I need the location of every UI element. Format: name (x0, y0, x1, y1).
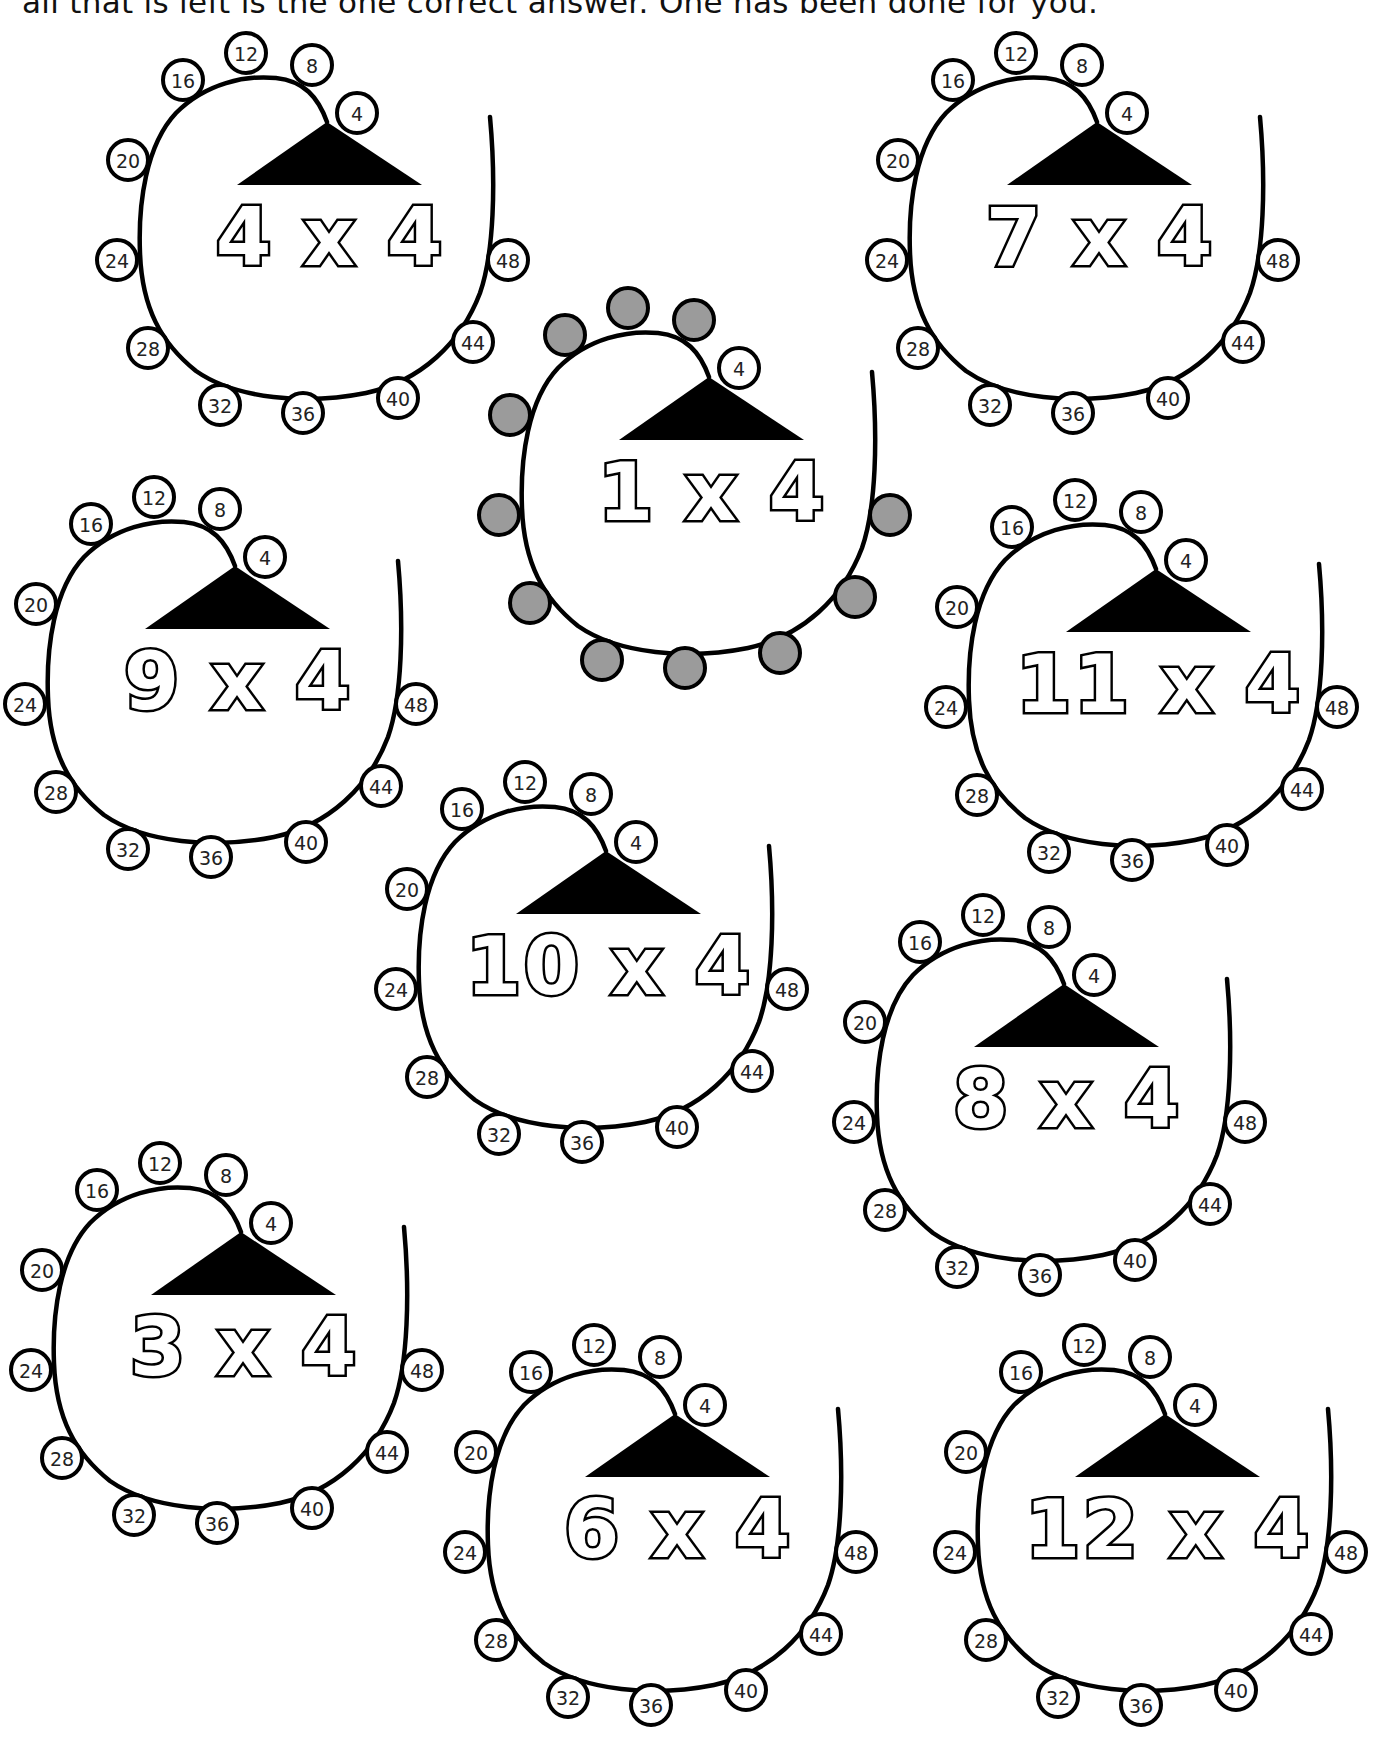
answer-bubble-8[interactable]: 8 (200, 489, 240, 529)
answer-bubble-32[interactable]: 32 (108, 829, 148, 869)
answer-bubble-40[interactable]: 40 (726, 1670, 766, 1710)
circle-icon[interactable] (445, 1532, 485, 1572)
answer-bubble-24[interactable]: 24 (5, 684, 45, 724)
answer-bubble-8[interactable] (674, 300, 714, 340)
answer-bubble-36[interactable]: 36 (197, 1503, 237, 1543)
circle-icon[interactable] (1053, 393, 1093, 433)
circle-icon[interactable] (836, 1532, 876, 1572)
circle-icon[interactable] (1055, 480, 1095, 520)
answer-bubble-24[interactable]: 24 (834, 1102, 874, 1142)
answer-bubble-20[interactable]: 20 (456, 1432, 496, 1472)
answer-bubble-20[interactable]: 20 (845, 1002, 885, 1042)
circle-icon[interactable] (367, 1432, 407, 1472)
answer-bubble-44[interactable]: 44 (1282, 769, 1322, 809)
answer-bubble-48[interactable]: 48 (836, 1532, 876, 1572)
circle-icon[interactable] (200, 385, 240, 425)
answer-bubble-48[interactable]: 48 (396, 684, 436, 724)
circle-icon[interactable] (574, 1325, 614, 1365)
shaded-circle-icon[interactable] (510, 583, 550, 623)
circle-icon[interactable] (933, 60, 973, 100)
answer-bubble-12[interactable] (608, 288, 648, 328)
circle-icon[interactable] (1038, 1677, 1078, 1717)
circle-icon[interactable] (77, 1170, 117, 1210)
circle-icon[interactable] (11, 1350, 51, 1390)
circle-icon[interactable] (1175, 1385, 1215, 1425)
shaded-circle-icon[interactable] (665, 648, 705, 688)
circle-icon[interactable] (108, 140, 148, 180)
answer-bubble-20[interactable]: 20 (946, 1432, 986, 1472)
answer-bubble-4[interactable]: 4 (1074, 955, 1114, 995)
circle-icon[interactable] (1064, 1325, 1104, 1365)
circle-icon[interactable] (283, 393, 323, 433)
circle-icon[interactable] (36, 772, 76, 812)
circle-icon[interactable] (511, 1352, 551, 1392)
circle-icon[interactable] (251, 1203, 291, 1243)
answer-bubble-44[interactable]: 44 (1223, 322, 1263, 362)
circle-icon[interactable] (286, 822, 326, 862)
answer-bubble-32[interactable]: 32 (1029, 832, 1069, 872)
answer-bubble-48[interactable]: 48 (1225, 1102, 1265, 1142)
circle-icon[interactable] (476, 1620, 516, 1660)
answer-bubble-24[interactable]: 24 (97, 240, 137, 280)
answer-bubble-28[interactable]: 28 (957, 775, 997, 815)
answer-bubble-48[interactable] (870, 495, 910, 535)
circle-icon[interactable] (1223, 322, 1263, 362)
answer-bubble-48[interactable]: 48 (1317, 687, 1357, 727)
circle-icon[interactable] (488, 240, 528, 280)
answer-bubble-48[interactable]: 48 (767, 969, 807, 1009)
answer-bubble-8[interactable]: 8 (1029, 907, 1069, 947)
answer-bubble-32[interactable]: 32 (479, 1114, 519, 1154)
circle-icon[interactable] (292, 45, 332, 85)
circle-icon[interactable] (200, 489, 240, 529)
answer-bubble-32[interactable]: 32 (1038, 1677, 1078, 1717)
answer-bubble-4[interactable]: 4 (685, 1385, 725, 1425)
answer-bubble-44[interactable]: 44 (1190, 1184, 1230, 1224)
circle-icon[interactable] (163, 60, 203, 100)
circle-icon[interactable] (996, 33, 1036, 73)
answer-bubble-24[interactable]: 24 (867, 240, 907, 280)
circle-icon[interactable] (1317, 687, 1357, 727)
answer-bubble-36[interactable]: 36 (191, 837, 231, 877)
answer-bubble-28[interactable] (510, 583, 550, 623)
answer-bubble-28[interactable]: 28 (128, 328, 168, 368)
answer-bubble-16[interactable]: 16 (933, 60, 973, 100)
circle-icon[interactable] (134, 477, 174, 517)
circle-icon[interactable] (767, 969, 807, 1009)
answer-bubble-28[interactable]: 28 (865, 1190, 905, 1230)
circle-icon[interactable] (1190, 1184, 1230, 1224)
answer-bubble-4[interactable]: 4 (719, 348, 759, 388)
answer-bubble-44[interactable]: 44 (361, 766, 401, 806)
answer-bubble-16[interactable]: 16 (77, 1170, 117, 1210)
circle-icon[interactable] (719, 348, 759, 388)
shaded-circle-icon[interactable] (760, 633, 800, 673)
circle-icon[interactable] (245, 537, 285, 577)
answer-bubble-20[interactable]: 20 (387, 869, 427, 909)
answer-bubble-20[interactable]: 20 (108, 140, 148, 180)
answer-bubble-12[interactable]: 12 (1064, 1325, 1104, 1365)
answer-bubble-32[interactable]: 32 (970, 385, 1010, 425)
circle-icon[interactable] (640, 1337, 680, 1377)
answer-bubble-16[interactable]: 16 (992, 507, 1032, 547)
circle-icon[interactable] (1115, 1240, 1155, 1280)
answer-bubble-32[interactable]: 32 (937, 1247, 977, 1287)
answer-bubble-24[interactable]: 24 (11, 1350, 51, 1390)
circle-icon[interactable] (402, 1350, 442, 1390)
circle-icon[interactable] (5, 684, 45, 724)
answer-bubble-12[interactable]: 12 (505, 762, 545, 802)
answer-bubble-16[interactable]: 16 (442, 789, 482, 829)
answer-bubble-8[interactable]: 8 (571, 774, 611, 814)
answer-bubble-12[interactable]: 12 (963, 895, 1003, 935)
answer-bubble-20[interactable]: 20 (22, 1250, 62, 1290)
answer-bubble-8[interactable]: 8 (292, 45, 332, 85)
answer-bubble-28[interactable]: 28 (42, 1438, 82, 1478)
shaded-circle-icon[interactable] (870, 495, 910, 535)
circle-icon[interactable] (108, 829, 148, 869)
circle-icon[interactable] (900, 922, 940, 962)
answer-bubble-8[interactable]: 8 (640, 1337, 680, 1377)
answer-bubble-28[interactable]: 28 (36, 772, 76, 812)
circle-icon[interactable] (1029, 832, 1069, 872)
shaded-circle-icon[interactable] (835, 577, 875, 617)
circle-icon[interactable] (548, 1677, 588, 1717)
answer-bubble-12[interactable]: 12 (1055, 480, 1095, 520)
answer-bubble-48[interactable]: 48 (488, 240, 528, 280)
